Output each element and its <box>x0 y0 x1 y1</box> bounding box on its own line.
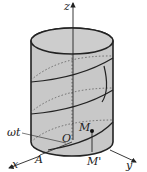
label-origin: O <box>62 133 71 144</box>
label-x: x <box>12 159 18 170</box>
label-y: y <box>126 160 132 171</box>
label-z: z <box>64 1 70 12</box>
label-m-prime: M' <box>87 156 101 167</box>
cylinder-diagram <box>0 0 147 172</box>
cylinder-top <box>31 28 113 54</box>
label-m: M <box>79 122 90 133</box>
label-angle: ωt <box>7 127 20 138</box>
point-m <box>90 129 94 133</box>
label-a: A <box>35 154 43 165</box>
